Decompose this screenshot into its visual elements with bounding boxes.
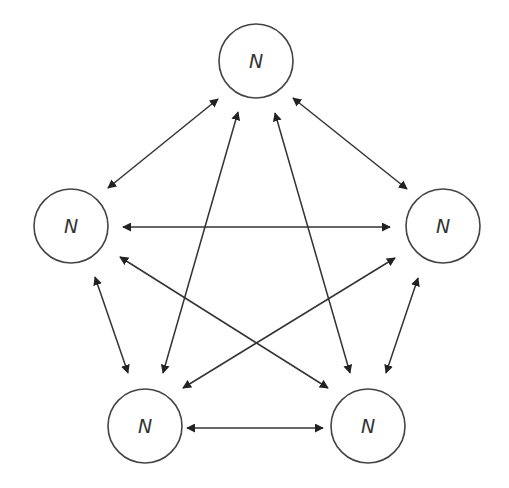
- edge-arrow-left-to-bottom-left: [95, 277, 128, 373]
- edges-group: [95, 98, 418, 428]
- node-label: N: [249, 50, 263, 72]
- node-label: N: [436, 215, 450, 237]
- node-left: N: [34, 189, 108, 263]
- node-label: N: [64, 215, 78, 237]
- edge-arrow-right-to-bottom-left: [183, 258, 395, 388]
- complete-graph-diagram: NNNNN: [0, 0, 509, 488]
- edge-arrow-top-to-left: [108, 99, 218, 188]
- node-bottom-left: N: [108, 389, 182, 463]
- edge-arrow-top-to-bottom-left: [163, 112, 238, 373]
- node-label: N: [361, 415, 375, 437]
- node-top: N: [219, 24, 293, 98]
- edge-arrow-right-to-bottom-right: [386, 278, 418, 373]
- nodes-group: NNNNN: [34, 24, 480, 463]
- edge-arrow-left-to-bottom-right: [120, 257, 328, 388]
- node-label: N: [138, 415, 152, 437]
- node-right: N: [406, 189, 480, 263]
- edge-arrow-top-to-bottom-right: [275, 113, 350, 373]
- node-bottom-right: N: [331, 389, 405, 463]
- edge-arrow-top-to-right: [293, 98, 407, 189]
